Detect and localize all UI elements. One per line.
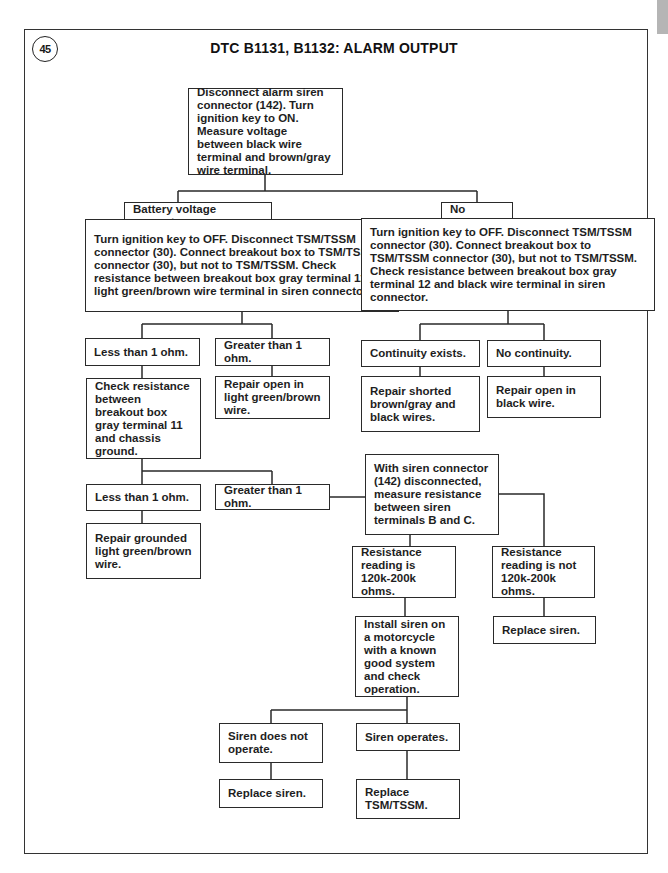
flowchart-step-siren-measure: With siren connector (142) disconnected,…	[365, 454, 499, 535]
flowchart-step-install-test: Install siren on a motorcycle with a kno…	[355, 616, 459, 697]
flowchart-step-c-less1: Less than 1 ohm.	[86, 484, 201, 511]
flowchart-step-right-check: Turn ignition key to OFF. Disconnect TSM…	[361, 218, 655, 311]
step-text: Turn ignition key to OFF. Disconnect TSM…	[94, 233, 390, 298]
step-text: Replace siren.	[228, 787, 306, 800]
flowchart-step-repair-shorted: Repair shorted brown/gray and black wire…	[361, 376, 480, 432]
flowchart-step-replace-tsm: Replace TSM/TSSM.	[356, 779, 460, 819]
step-text: Siren does not operate.	[228, 730, 314, 756]
step-text: Greater than 1 ohm.	[224, 339, 321, 365]
step-text: Repair grounded light green/brown wire.	[95, 532, 192, 571]
step-text: No continuity.	[496, 347, 572, 360]
flowchart-step-no-continuity: No continuity.	[487, 340, 601, 367]
flowchart-step-repair-grounded: Repair grounded light green/brown wire.	[86, 523, 201, 579]
step-text: Replace TSM/TSSM.	[365, 786, 451, 812]
step-text: Less than 1 ohm.	[95, 491, 189, 504]
step-text: Less than 1 ohm.	[94, 346, 188, 359]
flowchart-step-siren-no-op: Siren does not operate.	[219, 723, 323, 763]
step-text: Replace siren.	[502, 624, 580, 637]
flowchart-step-replace-siren-b: Replace siren.	[219, 779, 323, 808]
flowchart-step-left-check: Turn ignition key to OFF. Disconnect TSM…	[85, 219, 399, 312]
step-text: Resistance reading is not 120k-200k ohms…	[501, 546, 586, 598]
flowchart-step-repair-open-black: Repair open in black wire.	[487, 376, 601, 418]
step-text: Disconnect alarm siren connector (142). …	[197, 86, 334, 177]
step-text: Resistance reading is 120k-200k ohms.	[361, 546, 447, 598]
flowchart-step-res-out-range: Resistance reading is not 120k-200k ohms…	[492, 546, 595, 598]
flowchart-step-l-greater1: Greater than 1 ohm.	[215, 338, 330, 366]
step-text: Repair shorted brown/gray and black wire…	[370, 385, 471, 424]
flowchart-step-check-chassis: Check resistance between breakout box gr…	[86, 378, 201, 459]
page-edge-tab	[657, 0, 668, 34]
step-text: Check resistance between breakout box gr…	[95, 380, 192, 458]
flowchart-step-continuity: Continuity exists.	[361, 340, 480, 367]
step-text: Greater than 1 ohm.	[224, 484, 321, 510]
flowchart-step-c-greater1: Greater than 1 ohm.	[215, 484, 330, 510]
step-text: Siren operates.	[365, 731, 448, 744]
flowchart-step-replace-siren-r: Replace siren.	[493, 616, 596, 644]
step-text: Install siren on a motorcycle with a kno…	[364, 618, 450, 696]
step-text: Repair open in light green/brown wire.	[224, 378, 321, 417]
flowchart-step-l-less1: Less than 1 ohm.	[85, 338, 200, 366]
page-title: DTC B1131, B1132: ALARM OUTPUT	[0, 40, 668, 56]
step-text: With siren connector (142) disconnected,…	[374, 462, 490, 527]
step-text: Continuity exists.	[370, 347, 466, 360]
flowchart-step-res-in-range: Resistance reading is 120k-200k ohms.	[352, 546, 456, 598]
step-text: Repair open in black wire.	[496, 384, 592, 410]
flowchart-step-start: Disconnect alarm siren connector (142). …	[188, 88, 343, 175]
step-text: Turn ignition key to OFF. Disconnect TSM…	[370, 226, 646, 304]
flowchart-step-siren-op: Siren operates.	[356, 723, 460, 751]
flowchart-step-repair-open-lgb: Repair open in light green/brown wire.	[215, 376, 330, 419]
